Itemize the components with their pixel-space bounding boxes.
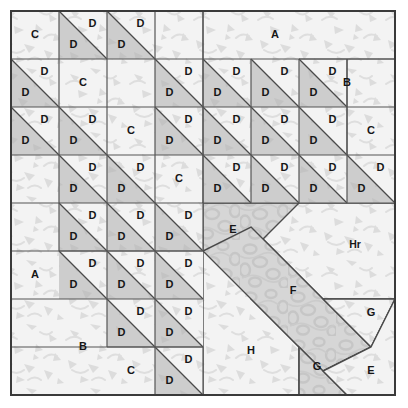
hst-unit (59, 11, 107, 59)
piece-label: B (79, 340, 87, 352)
piece-label: D (233, 65, 241, 77)
piece-label: A (31, 268, 39, 280)
piece-label: D (309, 182, 317, 194)
piece-label: D (309, 134, 317, 146)
piece-label: D (329, 161, 337, 173)
hst-unit (203, 155, 251, 203)
hst-unit (155, 251, 203, 299)
hst-unit (299, 59, 347, 107)
piece-label: D (185, 305, 193, 317)
piece-label: D (137, 209, 145, 221)
hst-unit (107, 155, 155, 203)
hst-unit (59, 107, 107, 155)
piece-label: C (31, 28, 39, 40)
hst-unit (59, 251, 107, 299)
hst-unit (299, 107, 347, 155)
hst-unit (107, 203, 155, 251)
piece-label: C (127, 124, 135, 136)
piece-label: D (137, 161, 145, 173)
quilt-block-svg: DDDDDDDDDDDDDDDDDDDDDDDDDDDDDDDDDDDDDDDD… (0, 0, 408, 408)
piece-label: D (213, 134, 221, 146)
hst-unit (251, 155, 299, 203)
piece-label: D (185, 65, 193, 77)
hst-unit (155, 107, 203, 155)
hst-unit (59, 203, 107, 251)
hst-unit (251, 59, 299, 107)
hst-unit (11, 107, 59, 155)
hst-unit (203, 59, 251, 107)
piece-label: D (185, 257, 193, 269)
piece-label: D (89, 209, 97, 221)
piece-label: D (21, 134, 29, 146)
piece-label: D (261, 134, 269, 146)
piece-label: D (233, 161, 241, 173)
piece-label: H (247, 344, 255, 356)
piece-label: D (89, 257, 97, 269)
piece-label: D (137, 305, 145, 317)
piece-label: C (367, 124, 375, 136)
hst-unit (59, 155, 107, 203)
piece-label: D (41, 65, 49, 77)
piece-label: D (165, 86, 173, 98)
piece-label: Hr (349, 238, 361, 250)
piece-label: D (69, 230, 77, 242)
piece-label: D (261, 86, 269, 98)
piece-label: D (69, 278, 77, 290)
piece-label: D (233, 113, 241, 125)
piece-label: D (261, 182, 269, 194)
piece-label: D (117, 278, 125, 290)
piece-label: D (377, 161, 385, 173)
piece-label: D (165, 230, 173, 242)
piece-label: D (185, 209, 193, 221)
piece-label: D (329, 65, 337, 77)
piece-label: D (357, 182, 365, 194)
hst-unit (107, 11, 155, 59)
quilt-diagram: DDDDDDDDDDDDDDDDDDDDDDDDDDDDDDDDDDDDDDDD… (0, 0, 408, 408)
hst-unit (203, 107, 251, 155)
piece-label: D (117, 182, 125, 194)
hst-unit (155, 203, 203, 251)
piece-label: D (21, 86, 29, 98)
piece-label: D (165, 134, 173, 146)
hst-unit (107, 251, 155, 299)
piece-label: A (271, 28, 279, 40)
hst-unit (155, 299, 203, 347)
hst-unit (347, 155, 395, 203)
piece-label: D (185, 353, 193, 365)
hst-unit (11, 59, 59, 107)
piece-label: D (89, 113, 97, 125)
hst-unit (299, 155, 347, 203)
piece-label: D (281, 65, 289, 77)
piece-label: D (281, 161, 289, 173)
hst-unit (251, 107, 299, 155)
piece-label: D (213, 182, 221, 194)
piece-label: C (79, 76, 87, 88)
piece-label: D (185, 113, 193, 125)
piece-label: G (367, 306, 376, 318)
piece-label: D (117, 38, 125, 50)
piece-label: D (213, 86, 221, 98)
piece-label: D (165, 374, 173, 386)
piece-label: D (69, 182, 77, 194)
hst-unit (155, 59, 203, 107)
piece-label: D (89, 161, 97, 173)
hst-unit (107, 299, 155, 347)
piece-label: D (309, 86, 317, 98)
piece-label: D (165, 326, 173, 338)
piece-label: B (343, 76, 351, 88)
hst-unit (155, 347, 203, 395)
piece-label: D (89, 17, 97, 29)
piece-label: D (69, 134, 77, 146)
piece-label: D (137, 17, 145, 29)
piece-label: D (69, 38, 77, 50)
piece-label: E (229, 223, 236, 235)
piece-label: C (175, 172, 183, 184)
piece-label: D (117, 230, 125, 242)
piece-label: E (367, 364, 374, 376)
piece-label: D (165, 278, 173, 290)
piece-label: D (117, 326, 125, 338)
piece-label: D (41, 113, 49, 125)
piece-label: D (281, 113, 289, 125)
patch-A-top (203, 11, 395, 59)
piece-label: C (127, 364, 135, 376)
